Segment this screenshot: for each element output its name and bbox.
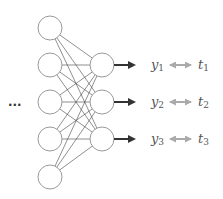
output-node (90, 127, 114, 151)
target-label: t1 (198, 57, 209, 73)
outputs: y1t1y2t2y3t3 (114, 57, 209, 147)
output-label: y2 (150, 94, 164, 110)
output-label: y1 (150, 57, 164, 73)
target-label: t3 (198, 131, 209, 147)
neural-network-diagram: y1t1y2t2y3t3 ... (0, 0, 223, 199)
target-label: t2 (198, 94, 209, 110)
edge (50, 65, 102, 177)
output-label: y3 (150, 131, 164, 147)
input-node (38, 127, 62, 151)
input-node (38, 165, 62, 189)
ellipsis: ... (8, 95, 22, 109)
input-node (38, 53, 62, 77)
input-node (38, 16, 62, 40)
output-node (90, 53, 114, 77)
output-node (90, 90, 114, 114)
input-node (38, 90, 62, 114)
